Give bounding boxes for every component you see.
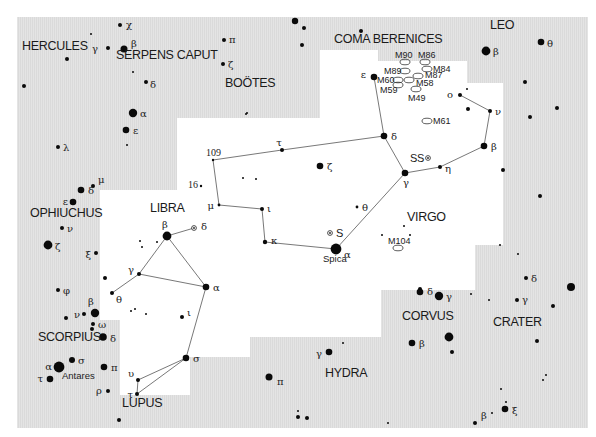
star-number-label: 16 (188, 179, 198, 190)
star-icon (523, 80, 527, 84)
star-icon (505, 401, 507, 403)
star-icon (56, 145, 60, 149)
star-designation: β (162, 219, 168, 230)
star-icon (60, 226, 64, 230)
constellation-label-hydra: HYDRA (325, 366, 368, 380)
star-icon (538, 39, 545, 46)
star-designation: θ (116, 294, 122, 305)
star-icon (555, 106, 559, 110)
star-icon (482, 47, 491, 56)
constellation-label-virgo: VIRGO (407, 210, 446, 224)
star-designation: ε (133, 125, 138, 136)
galaxy-label: M58 (416, 78, 434, 88)
star-icon (488, 299, 490, 301)
star-designation: δ (531, 273, 537, 284)
star-icon (101, 364, 108, 371)
galaxy-label: M49 (408, 93, 426, 103)
star-icon (402, 170, 409, 177)
star-icon (297, 410, 299, 412)
star-icon (260, 207, 264, 211)
star-icon (499, 244, 501, 246)
star-icon (266, 374, 273, 381)
star-designation: ι (267, 203, 271, 214)
star-icon (263, 240, 267, 244)
star-icon (501, 168, 505, 172)
star-icon (44, 241, 53, 250)
star-icon (183, 355, 190, 362)
star-icon (538, 194, 542, 198)
star-icon (156, 241, 158, 243)
galaxy-label: M90 (395, 50, 413, 60)
star-designation: ρ (96, 385, 102, 396)
star-icon (445, 333, 454, 342)
star-icon (134, 308, 136, 310)
star-icon (280, 148, 284, 152)
star-icon (137, 272, 141, 276)
variable-star-label: S (336, 227, 343, 239)
star-designation: β (491, 141, 497, 152)
star-designation: κ (271, 235, 278, 246)
star-icon (535, 339, 539, 343)
star-icon (130, 310, 132, 312)
star-icon (517, 253, 519, 255)
star-icon (403, 225, 405, 227)
star-icon (292, 18, 298, 24)
star-icon (132, 71, 134, 73)
constellation-label-corvus: CORVUS (402, 309, 453, 323)
star-icon (221, 62, 225, 66)
star-designation: ζ (228, 59, 234, 70)
star-icon (200, 185, 202, 187)
named-star-label-antares: Antares (62, 370, 95, 381)
constellation-label-crater: CRATER (493, 315, 542, 329)
star-icon (473, 421, 477, 425)
star-icon (500, 388, 502, 390)
star-icon (470, 293, 472, 295)
star-designation: π (229, 34, 236, 45)
constellation-label-coma-berenices: COMA BERENICES (334, 32, 442, 46)
star-number-label: 109 (206, 147, 221, 158)
variable-star-dot (193, 227, 195, 229)
star-designation: π (277, 376, 284, 387)
star-icon (481, 143, 488, 150)
star-designation: σ (193, 353, 200, 364)
star-icon (139, 240, 141, 242)
star-icon (524, 276, 528, 280)
star-designation: α (140, 108, 147, 119)
named-star-label-spica: Spica (323, 253, 347, 264)
star-designation: π (111, 362, 118, 373)
star-icon (94, 251, 98, 255)
star-designation: δ (88, 185, 94, 196)
constellation-label-leo: LEO (490, 18, 515, 32)
star-icon (409, 340, 416, 347)
star-designation: τ (37, 373, 43, 384)
galaxy-label: M60 (377, 75, 395, 85)
star-icon (64, 316, 68, 320)
star-icon (438, 165, 442, 169)
star-icon (491, 412, 493, 414)
star-icon (356, 206, 359, 209)
star-designation: δ (427, 286, 433, 297)
star-icon (91, 322, 95, 326)
star-designation: ι (187, 307, 191, 318)
star-icon (203, 284, 210, 291)
star-icon (450, 350, 454, 354)
star-designation: ν (74, 309, 80, 320)
star-icon (91, 309, 99, 317)
star-icon (342, 342, 344, 344)
constellation-label-ophiuchus: OPHIUCHUS (30, 206, 102, 220)
star-icon (123, 127, 130, 134)
star-designation: δ (150, 79, 156, 90)
star-designation: φ (63, 285, 70, 296)
constellation-label-libra: LIBRA (150, 201, 186, 215)
star-icon (502, 406, 509, 413)
star-icon (78, 187, 85, 194)
galaxy-label: M61 (433, 116, 451, 126)
galaxy-label: M59 (380, 85, 398, 95)
star-icon (218, 204, 221, 207)
star-designation: γ (403, 177, 409, 188)
star-icon (542, 379, 544, 381)
star-icon (381, 234, 383, 236)
star-icon (545, 374, 547, 376)
variable-star-label: SS (410, 152, 424, 164)
star-designation: δ (391, 131, 397, 142)
